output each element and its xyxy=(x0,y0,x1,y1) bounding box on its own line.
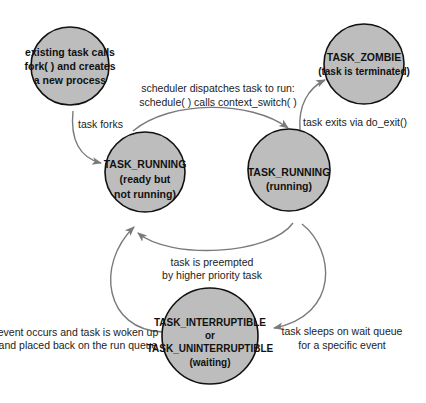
edge-dispatch: scheduler dispatches task to run: schedu… xyxy=(133,82,297,131)
node-ready-circle xyxy=(105,132,185,212)
label-preempt-line1: task is preempted xyxy=(171,256,254,268)
node-fork-line1: existing task calls xyxy=(25,46,115,58)
label-preempt-line2: by higher priority task xyxy=(162,269,263,281)
label-dispatch-line1: scheduler dispatches task to run: xyxy=(141,82,295,94)
label-sleep-line2: for a specific event xyxy=(298,339,386,351)
node-waiting-line4: (waiting) xyxy=(189,357,230,368)
label-task-forks: task forks xyxy=(78,118,123,130)
node-running: TASK_RUNNING (running) xyxy=(248,129,331,211)
arrow-preempt xyxy=(138,223,293,250)
node-running-line1: TASK_RUNNING xyxy=(248,166,331,178)
node-zombie-line1: TASK_ZOMBIE xyxy=(327,51,401,63)
edge-sleep: task sleeps on wait queue for a specific… xyxy=(274,224,403,351)
node-zombie-line2: (task is terminated) xyxy=(318,66,410,77)
node-waiting-line2: or xyxy=(205,330,215,341)
arrow-dispatch xyxy=(133,107,288,131)
node-waiting: TASK_INTERRUPTIBLE or TASK_UNINTERRUPTIB… xyxy=(147,288,274,384)
edge-preempt: task is preempted by higher priority tas… xyxy=(138,223,293,281)
label-dispatch-line2: schedule( ) calls context_switch( ) xyxy=(139,96,297,108)
arrow-sleep xyxy=(274,224,326,328)
node-ready-line1: TASK_RUNNING xyxy=(104,158,187,170)
node-zombie: TASK_ZOMBIE (task is terminated) xyxy=(318,24,410,104)
node-zombie-circle xyxy=(324,24,404,104)
node-ready: TASK_RUNNING (ready but not running) xyxy=(104,132,187,212)
node-ready-line2: (ready but xyxy=(120,173,171,185)
node-running-line2: (running) xyxy=(266,180,312,192)
node-waiting-line3: TASK_UNINTERRUPTIBLE xyxy=(147,343,274,354)
node-ready-line3: not running) xyxy=(114,188,176,200)
node-waiting-line1: TASK_INTERRUPTIBLE xyxy=(154,317,266,328)
node-fork-line3: a new process xyxy=(34,74,107,86)
label-wakeup-line2: and placed back on the run queue xyxy=(0,339,158,351)
label-exit: task exits via do_exit() xyxy=(303,116,407,128)
label-sleep-line1: task sleeps on wait queue xyxy=(282,325,403,337)
node-fork: existing task calls fork( ) and creates … xyxy=(24,27,115,105)
label-wakeup-line1: event occurs and task is woken up xyxy=(0,326,158,338)
process-state-diagram: task forks scheduler dispatches task to … xyxy=(0,0,426,403)
edge-wakeup: event occurs and task is woken up and pl… xyxy=(0,227,163,351)
node-fork-line2: fork( ) and creates xyxy=(24,60,115,72)
